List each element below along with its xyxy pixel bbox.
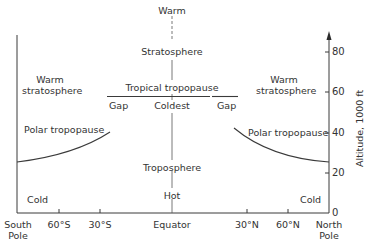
label-polar-tropopause-south: Polar tropopause — [24, 124, 104, 135]
label-gap-north: Gap — [217, 100, 236, 111]
label-warm-top: Warm — [152, 5, 192, 16]
y-tick-60: 60 — [332, 86, 345, 97]
x-label-south-pole-1: South — [2, 219, 34, 230]
polar-tropopause-south-curve — [17, 132, 110, 162]
label-cold-south: Cold — [27, 194, 48, 205]
label-hot: Hot — [152, 190, 192, 201]
label-cold-north: Cold — [300, 194, 321, 205]
y-tick-20: 20 — [332, 167, 345, 178]
x-label-north-pole-1: North — [313, 219, 345, 230]
x-label-60n: 60°N — [271, 219, 305, 230]
label-warm-south: Warm — [22, 74, 78, 85]
y-tick-0: 0 — [332, 207, 338, 218]
x-label-30n: 30°N — [230, 219, 264, 230]
y-ticks — [325, 52, 329, 173]
label-stratosphere: Stratosphere — [140, 46, 204, 57]
label-troposphere: Troposphere — [140, 162, 204, 173]
label-coldest: Coldest — [148, 100, 196, 111]
y-axis-title: Altitude, 1000 ft — [354, 90, 365, 167]
y-tick-80: 80 — [332, 46, 345, 57]
x-label-30s: 30°S — [83, 219, 117, 230]
label-tropical-tropopause: Tropical tropopause — [120, 82, 224, 93]
label-polar-tropopause-north: Polar tropopause — [248, 127, 328, 138]
x-label-equator: Equator — [148, 219, 196, 230]
x-label-south-pole-2: Pole — [2, 230, 34, 241]
label-stratosphere-south: stratosphere — [22, 85, 78, 96]
x-label-60s: 60°S — [42, 219, 76, 230]
label-stratosphere-north: stratosphere — [256, 85, 312, 96]
y-tick-40: 40 — [332, 127, 345, 138]
atmosphere-diagram: Warm Stratosphere Tropical tropopause Co… — [0, 0, 375, 251]
x-label-north-pole-2: Pole — [313, 230, 345, 241]
label-gap-south: Gap — [109, 100, 128, 111]
axis-arrow-icon — [327, 31, 332, 40]
x-ticks — [59, 209, 288, 213]
label-warm-north: Warm — [256, 74, 312, 85]
